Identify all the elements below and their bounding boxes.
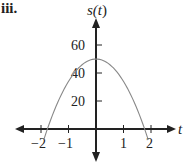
y-axis-title: s(t) <box>87 2 107 19</box>
x-tick-label: 2 <box>146 136 153 151</box>
x-tick-label: 1 <box>120 136 127 151</box>
y-tick-label: 20 <box>71 94 85 109</box>
y-axis-up-arrow-icon <box>92 18 100 28</box>
part-label: iii. <box>1 0 18 16</box>
x-axis-title: t <box>178 121 183 137</box>
chart: iii. s(t) t −2 −1 1 2 60 40 20 <box>0 0 185 168</box>
x-axis-right-arrow-icon <box>167 125 176 133</box>
y-tick-label: 60 <box>71 38 85 53</box>
y-axis-down-arrow-icon <box>92 152 100 162</box>
x-tick-label: −2 <box>31 136 46 151</box>
x-axis-left-arrow-icon <box>15 125 24 133</box>
x-tick-label: −1 <box>58 136 73 151</box>
y-axis <box>92 18 102 162</box>
